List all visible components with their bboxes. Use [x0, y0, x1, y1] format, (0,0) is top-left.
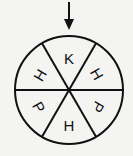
sector-label-lower-left: P	[29, 98, 49, 115]
spinner-diagram: K H P H P H	[0, 0, 133, 156]
spinner-svg: K H P H P H	[0, 0, 133, 156]
sector-label-upper-left: H	[30, 66, 50, 84]
sector-label-lower-right: P	[88, 98, 108, 115]
sector-label-top: K	[64, 50, 74, 67]
sector-label-upper-right: H	[87, 65, 107, 83]
pointer-arrow-icon	[64, 2, 74, 30]
sector-label-bottom: H	[64, 117, 75, 134]
